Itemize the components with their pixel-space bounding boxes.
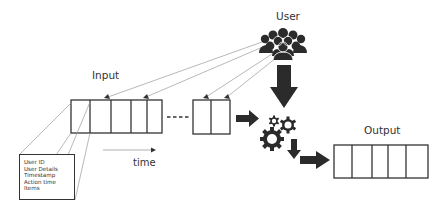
user-group-icon xyxy=(259,28,307,60)
gears-icon xyxy=(260,116,296,152)
output-label: Output xyxy=(364,124,400,136)
processor-to-output-arrow xyxy=(300,151,330,169)
field-user-details: User Details xyxy=(24,166,74,173)
field-action-time: Action time xyxy=(24,179,74,186)
input-queue-tail xyxy=(193,100,230,134)
time-arrow-head xyxy=(151,148,156,153)
user-to-processor-arrow xyxy=(270,65,298,108)
time-label: time xyxy=(133,157,156,168)
input-label: Input xyxy=(92,69,119,81)
arrow-heads-small xyxy=(104,94,230,99)
record-detail-box: User ID User Details Timestamp Action ti… xyxy=(19,154,75,200)
field-user-id: User ID xyxy=(24,159,74,166)
queue-to-processor-arrow xyxy=(236,110,259,127)
field-timestamp: Timestamp xyxy=(24,172,74,179)
processor-down-arrow xyxy=(287,139,301,159)
field-items: Items xyxy=(24,185,74,192)
user-label: User xyxy=(276,10,300,22)
input-queue xyxy=(71,100,162,133)
user-to-input-arrows xyxy=(108,42,276,97)
output-queue xyxy=(334,145,428,178)
